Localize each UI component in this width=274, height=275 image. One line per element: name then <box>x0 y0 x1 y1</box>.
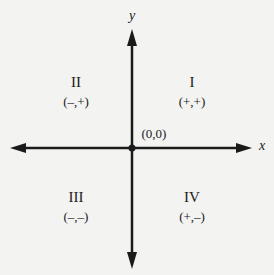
origin-label: (0,0) <box>136 126 172 142</box>
quadrant-iv-numeral: IV <box>172 189 212 206</box>
y-axis-down-arrow <box>127 252 137 269</box>
quadrant-i-numeral: I <box>172 74 212 91</box>
y-axis-up-arrow <box>127 29 137 46</box>
quadrant-iii-signs: (–,–) <box>56 209 96 225</box>
x-axis-left-arrow <box>10 143 26 153</box>
x-axis-right-arrow <box>236 143 252 153</box>
quadrant-i-signs: (+,+) <box>172 94 212 110</box>
quadrant-ii-numeral: II <box>56 74 96 91</box>
quadrant-iv-signs: (+,–) <box>172 209 212 225</box>
y-axis-label: y <box>125 8 139 24</box>
quadrant-iii-numeral: III <box>56 189 96 206</box>
x-axis-label: x <box>255 138 269 154</box>
origin-point <box>129 145 136 152</box>
quadrant-ii-signs: (–,+) <box>56 94 96 110</box>
